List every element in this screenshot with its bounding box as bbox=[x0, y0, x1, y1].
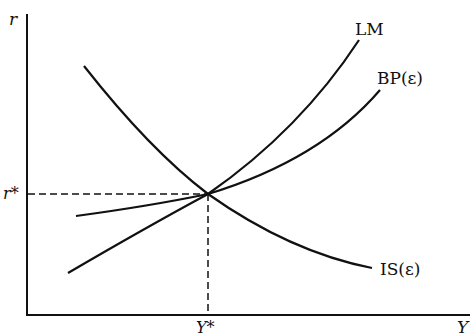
r-star-label: r* bbox=[3, 184, 19, 203]
bp-label: BP(ε) bbox=[377, 68, 423, 88]
is-lm-bp-diagram: r Y r* Y* LM BP(ε) IS(ε) bbox=[0, 0, 470, 335]
lm-curve bbox=[68, 40, 359, 273]
y-axis-label: r bbox=[9, 9, 18, 29]
lm-label: LM bbox=[355, 19, 384, 39]
y-star-label: Y* bbox=[196, 318, 215, 335]
is-label: IS(ε) bbox=[380, 259, 420, 279]
bp-curve bbox=[76, 90, 380, 216]
x-axis-label: Y bbox=[457, 317, 470, 335]
